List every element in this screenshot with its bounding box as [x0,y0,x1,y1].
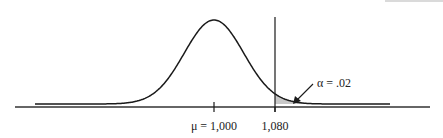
tick-label-mean: μ = 1,000 [191,119,237,133]
normal-curve [35,20,390,104]
rejection-region-shade [275,94,390,104]
annotation-arrow [297,84,313,100]
alpha-annotation: α = .02 [317,76,351,90]
tick-label-critical: 1,080 [262,119,289,133]
normal-distribution-chart: μ = 1,000 1,080 α = .02 [0,0,443,138]
